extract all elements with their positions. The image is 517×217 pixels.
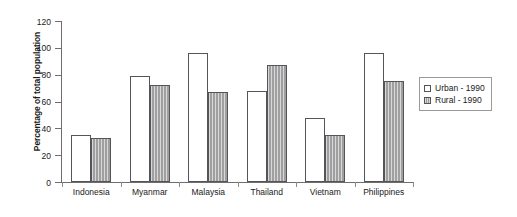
x-axis-label: Malaysia [191,187,225,197]
x-axis-label: Thailand [250,187,283,197]
y-tick: 120 [55,21,61,22]
y-tick: 20 [55,155,61,156]
x-tick [179,182,180,187]
legend-item-urban: Urban - 1990 [424,82,485,94]
y-axis-line [61,21,62,182]
bar-group [247,21,287,182]
y-tick: 40 [55,128,61,129]
bar-rural [325,135,345,182]
bar-urban [71,135,91,182]
legend-swatch-urban-icon [424,85,431,92]
y-tick-label: 60 [42,97,51,107]
y-tick: 100 [55,48,61,49]
y-tick: 0 [55,182,61,183]
x-axis-label: Myanmar [132,187,167,197]
x-tick [296,182,297,187]
bar-urban [130,76,150,182]
y-tick-label: 80 [42,70,51,80]
y-tick-label: 0 [46,178,51,188]
y-tick-label: 100 [37,43,51,53]
bar-urban [188,53,208,182]
x-tick [121,182,122,187]
x-tick [355,182,356,187]
bar-rural [208,92,228,182]
bar-rural [150,85,170,182]
bar-rural [384,81,404,182]
bar-rural [267,65,287,182]
x-axis-label: Vietnam [310,187,341,197]
legend-swatch-rural-icon [424,97,431,104]
x-axis-label: Philippines [363,187,404,197]
bar-group [71,21,111,182]
legend: Urban - 1990 Rural - 1990 [419,77,492,111]
plot-area: 020406080100120 [62,21,413,182]
y-tick-label: 20 [42,151,51,161]
bar-group [305,21,345,182]
y-tick: 80 [55,75,61,76]
y-tick-label: 120 [37,17,51,27]
bar-urban [364,53,384,182]
x-tick [62,182,63,187]
x-axis-label: Indonesia [73,187,110,197]
y-tick: 60 [55,102,61,103]
x-tick [413,182,414,187]
y-tick-label: 40 [42,124,51,134]
legend-item-rural: Rural - 1990 [424,94,485,106]
bar-urban [247,91,267,182]
bar-rural [91,138,111,182]
legend-label-urban: Urban - 1990 [435,83,485,93]
x-tick [238,182,239,187]
bar-group [364,21,404,182]
bar-group [130,21,170,182]
bar-group [188,21,228,182]
bar-urban [305,118,325,182]
bar-chart-figure: Percentage of total population 020406080… [0,0,517,217]
legend-label-rural: Rural - 1990 [435,95,482,105]
